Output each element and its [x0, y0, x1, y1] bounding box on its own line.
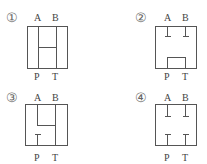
valve-symbol-closed-center	[104, 82, 204, 164]
valve-symbol-h-center	[0, 0, 100, 82]
diagram-4: ④ A B P T	[104, 82, 204, 164]
diagram-3: ③ A B P T	[0, 82, 100, 164]
valve-symbol-p-blocked	[0, 82, 100, 164]
valve-symbol-tandem	[104, 0, 204, 82]
diagram-2: ② A B P T	[104, 0, 204, 82]
diagram-1: ① A B P T	[0, 0, 100, 82]
